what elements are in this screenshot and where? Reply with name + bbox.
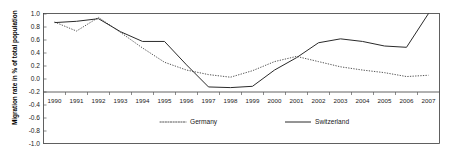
y-axis-title-text: Migration rate in % of total population <box>11 10 19 125</box>
x-tick-label-1991: 1991 <box>70 97 84 104</box>
x-tick-label-1992: 1992 <box>92 97 106 104</box>
x-tick-label-1996: 1996 <box>180 97 194 104</box>
y-tick-label: -0.6 <box>29 114 41 121</box>
x-tick-label-2005: 2005 <box>378 97 392 104</box>
x-tick-label-1999: 1999 <box>246 97 260 104</box>
legend-label-switzerland: Switzerland <box>315 118 349 125</box>
x-tick-label-1997: 1997 <box>202 97 216 104</box>
x-tick-label-1995: 1995 <box>158 97 172 104</box>
x-tick-label-2002: 2002 <box>312 97 326 104</box>
x-tick-label-1998: 1998 <box>224 97 238 104</box>
x-tick-label-2006: 2006 <box>400 97 414 104</box>
y-tick-label: 0.6 <box>31 36 40 43</box>
x-tick-label-2000: 2000 <box>268 97 282 104</box>
y-tick-label: -0.4 <box>29 101 41 108</box>
x-tick-label-2007: 2007 <box>422 97 436 104</box>
y-tick-label: 1.0 <box>31 10 40 17</box>
x-tick-label-1990: 1990 <box>48 97 62 104</box>
y-tick-label: 0.4 <box>31 49 40 56</box>
migration-rate-line-chart: Migration rate in % of total population … <box>0 0 455 149</box>
legend-label-germany: Germany <box>190 118 218 126</box>
y-tick-label: 0.8 <box>31 23 40 30</box>
y-axis-title: Migration rate in % of total population <box>11 10 19 125</box>
x-tick-label-2004: 2004 <box>356 97 370 104</box>
x-tick-label-2003: 2003 <box>334 97 348 104</box>
chart-background <box>0 0 455 149</box>
x-tick-label-1994: 1994 <box>136 97 150 104</box>
y-tick-label: 0.2 <box>31 62 40 69</box>
y-tick-label: -0.8 <box>29 127 41 134</box>
chart-canvas: Migration rate in % of total population … <box>0 0 455 149</box>
x-tick-label-1993: 1993 <box>114 97 128 104</box>
x-tick-label-2001: 2001 <box>290 97 304 104</box>
y-tick-label: 0.0 <box>31 75 40 82</box>
y-tick-label: -0.2 <box>29 88 41 95</box>
y-tick-label: -1.0 <box>29 140 41 147</box>
